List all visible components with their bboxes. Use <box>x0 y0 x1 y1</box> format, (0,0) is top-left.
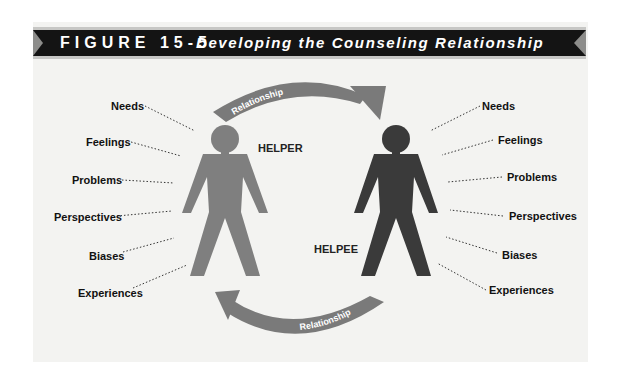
helper-label: HELPER <box>258 142 303 155</box>
relationship-arrow-bottom: Relationship <box>215 290 384 334</box>
left-leader-lines <box>117 106 195 288</box>
left-attribute-biases: Biases <box>89 250 124 263</box>
right-attribute-experiences: Experiences <box>489 284 554 297</box>
helpee-figure <box>354 125 438 276</box>
right-attribute-feelings: Feelings <box>498 134 543 147</box>
helpee-label: HELPEE <box>314 243 358 256</box>
helper-figure <box>182 125 268 276</box>
right-attribute-needs: Needs <box>482 100 515 113</box>
diagram-canvas: Relationship Relationship <box>0 0 619 380</box>
left-attribute-problems: Problems <box>72 174 122 187</box>
left-attribute-feelings: Feelings <box>86 136 131 149</box>
right-leader-lines <box>430 106 503 290</box>
right-attribute-problems: Problems <box>507 171 557 184</box>
right-attribute-biases: Biases <box>502 249 537 262</box>
left-attribute-needs: Needs <box>111 100 144 113</box>
right-attribute-perspectives: Perspectives <box>509 210 577 223</box>
left-attribute-experiences: Experiences <box>78 287 143 300</box>
left-attribute-perspectives: Perspectives <box>54 211 122 224</box>
relationship-arrow-top: Relationship <box>213 82 386 122</box>
